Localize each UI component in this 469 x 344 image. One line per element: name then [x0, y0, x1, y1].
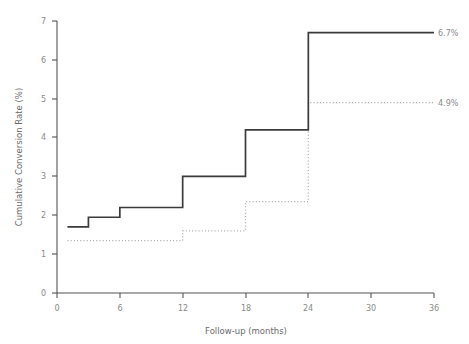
x-tick-label-18: 18	[241, 304, 251, 313]
y-tick-label-1: 1	[41, 250, 46, 259]
dotted-series-line	[67, 103, 434, 241]
step-chart-canvas: 7 6 5 4 3 2 1 0 0 6 12 18 24 30 36 Follo…	[0, 0, 469, 344]
y-tick-label-6: 6	[41, 56, 46, 65]
y-tick-label-7: 7	[41, 17, 46, 26]
chart-figure: 7 6 5 4 3 2 1 0 0 6 12 18 24 30 36 Follo…	[0, 0, 469, 344]
y-tick-label-4: 4	[41, 133, 46, 142]
y-tick-label-0: 0	[41, 289, 46, 298]
x-tick-label-36: 36	[429, 304, 439, 313]
x-tick-label-6: 6	[117, 304, 122, 313]
x-axis-title: Follow-up (months)	[205, 326, 287, 336]
x-tick-label-24: 24	[303, 304, 313, 313]
x-tick-label-0: 0	[54, 304, 59, 313]
dotted-series-end-label: 4.9%	[438, 99, 459, 108]
y-tick-label-2: 2	[41, 211, 46, 220]
y-tick-label-5: 5	[41, 95, 46, 104]
solid-series-line	[67, 33, 434, 227]
solid-series-end-label: 6.7%	[438, 29, 459, 38]
y-tick-label-3: 3	[41, 172, 46, 181]
x-tick-label-12: 12	[178, 304, 188, 313]
y-axis-title: Cumulative Conversion Rate (%)	[14, 88, 24, 226]
x-tick-label-30: 30	[366, 304, 376, 313]
